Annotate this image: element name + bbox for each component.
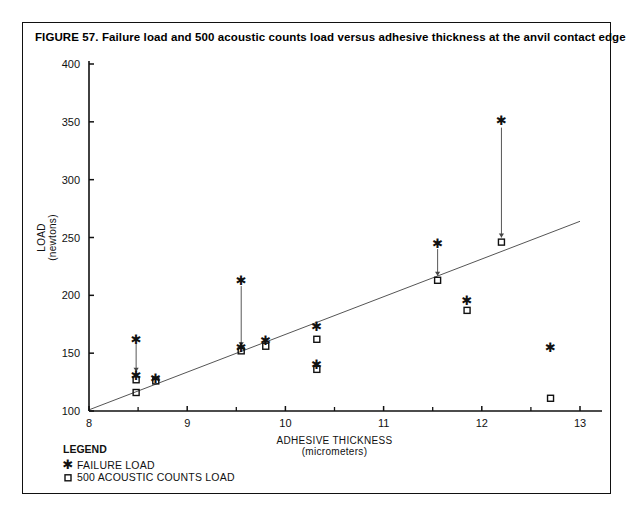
annotation-arrowhead: [499, 234, 504, 238]
trend-line-group: [89, 221, 580, 410]
failure-load-point: ✱: [260, 333, 271, 348]
failure-load-point: ✱: [311, 357, 322, 372]
x-tick-label: 13: [574, 417, 586, 429]
figure-frame: FIGURE 57. Failure load and 500 acoustic…: [22, 22, 611, 494]
y-tick-label: 350: [62, 116, 80, 128]
legend-item-label: 500 ACOUSTIC COUNTS LOAD: [77, 471, 235, 483]
acoustic-counts-point: [498, 239, 504, 245]
acoustic-counts-point: [435, 277, 441, 283]
legend-heading: LEGEND: [63, 443, 107, 455]
y-axis-units: (newtons): [47, 214, 58, 261]
acoustic-counts-point: [548, 395, 554, 401]
failure-load-point: ✱: [462, 293, 473, 308]
y-tick-label: 300: [62, 174, 80, 186]
failure-load-point: ✱: [432, 236, 443, 251]
x-tick-label: 10: [279, 417, 291, 429]
circle-marker-icon: [65, 475, 71, 481]
x-axis-title: ADHESIVE THICKNESS: [277, 435, 393, 446]
scatter-chart: 8910111213100150200250300350400 ✱✱✱✱✱✱✱✱…: [23, 23, 612, 495]
y-tick-label: 100: [62, 405, 80, 417]
plot-area: 8910111213100150200250300350400 ✱✱✱✱✱✱✱✱…: [23, 23, 612, 495]
x-tick-label: 9: [184, 417, 190, 429]
x-tick-label: 11: [378, 417, 389, 429]
failure-load-point: ✱: [131, 368, 142, 383]
failure-load-point: ✱: [236, 273, 247, 288]
acoustic-counts-point: [314, 336, 320, 342]
y-tick-label: 250: [62, 232, 80, 244]
legend-group: LEGEND✱FAILURE LOAD500 ACOUSTIC COUNTS L…: [63, 443, 235, 483]
arrow-annotations-group: [134, 128, 505, 372]
legend-item-label: FAILURE LOAD: [77, 459, 155, 471]
failure-load-point: ✱: [311, 319, 322, 334]
axes-group: [89, 61, 602, 411]
data-points-group: ✱✱✱✱✱✱✱✱✱✱✱✱: [131, 113, 556, 401]
star-marker-icon: ✱: [63, 457, 74, 472]
acoustic-counts-point: [464, 307, 470, 313]
x-axis-units: (micrometers): [302, 446, 368, 457]
y-axis-title: LOAD: [36, 223, 47, 251]
failure-load-point: ✱: [496, 113, 507, 128]
x-tick-label: 8: [86, 417, 92, 429]
x-tick-label: 12: [476, 417, 488, 429]
trend-line: [89, 221, 580, 410]
y-tick-label: 200: [62, 289, 80, 301]
failure-load-point: ✱: [131, 332, 142, 347]
y-tick-label: 150: [62, 347, 80, 359]
failure-load-point: ✱: [545, 340, 556, 355]
y-tick-label: 400: [62, 58, 80, 70]
